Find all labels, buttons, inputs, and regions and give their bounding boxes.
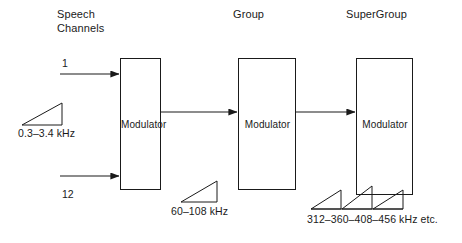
stage-title-group: Group [233,8,264,22]
frequency-label-supergroup: 312–360–408–456 kHz etc. [307,213,438,225]
modulator-label-supergroup: Modulator [357,119,413,130]
spectrum-triangle-supergroup-3 [373,190,403,209]
channel-number-first: 1 [62,57,68,69]
spectrum-triangle-supergroup-1 [311,190,341,209]
stage-title-supergroup: SuperGroup [346,8,407,22]
spectrum-triangle-voiceband [22,103,62,125]
fdm-hierarchy-diagram: Speech Channels Group SuperGroup Modulat… [0,0,462,243]
modulator-label-group: Modulator [239,119,296,130]
frequency-label-group: 60–108 kHz [171,205,228,217]
modulator-label-speech-channels: Modulator [121,119,161,130]
stage-title-speech-channels: Speech Channels [57,8,104,35]
spectrum-triangle-group [181,181,217,202]
channel-number-last: 12 [62,188,74,200]
frequency-label-voiceband: 0.3–3.4 kHz [18,127,75,139]
